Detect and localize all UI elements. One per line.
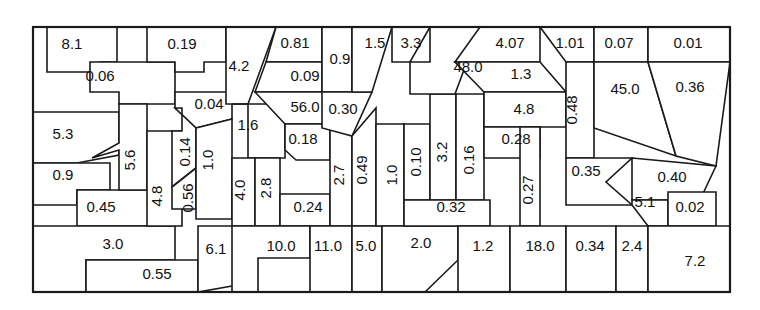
treemap-cell[interactable] — [648, 27, 730, 62]
treemap-cell[interactable] — [310, 226, 352, 292]
treemap-cells-layer — [33, 27, 730, 292]
treemap-figure: 8.10.065.30.90.453.00.555.60.194.80.040.… — [0, 0, 760, 310]
treemap-cell[interactable] — [280, 194, 330, 226]
treemap-cell[interactable] — [566, 226, 616, 292]
treemap-cell[interactable] — [404, 124, 430, 200]
treemap-cell[interactable] — [520, 127, 540, 226]
treemap-cell[interactable] — [255, 62, 322, 92]
treemap-cell[interactable] — [232, 158, 255, 226]
treemap-cell[interactable] — [458, 226, 510, 292]
treemap-cell[interactable] — [196, 119, 232, 219]
treemap-cell[interactable] — [430, 94, 456, 200]
treemap-cell[interactable] — [266, 27, 322, 62]
treemap-cell[interactable] — [33, 112, 119, 163]
treemap-cell[interactable] — [456, 94, 484, 200]
treemap-cell[interactable] — [540, 27, 594, 62]
treemap-cell[interactable] — [322, 27, 352, 92]
treemap-cell[interactable] — [352, 226, 382, 292]
treemap-cell[interactable] — [632, 200, 668, 226]
treemap-cell[interactable] — [392, 27, 430, 62]
treemap-cell[interactable] — [594, 27, 648, 62]
treemap-cell[interactable] — [255, 158, 280, 226]
treemap-cell[interactable] — [285, 124, 330, 160]
treemap-cell[interactable] — [510, 226, 566, 292]
treemap-cell[interactable] — [330, 124, 352, 226]
treemap-cell[interactable] — [668, 192, 716, 226]
treemap-canvas: 8.10.065.30.90.453.00.555.60.194.80.040.… — [0, 0, 760, 310]
treemap-cell[interactable] — [616, 226, 648, 292]
treemap-cell[interactable] — [566, 62, 594, 158]
treemap-cell[interactable] — [648, 226, 730, 292]
treemap-cell[interactable] — [404, 200, 490, 226]
treemap-cell[interactable] — [86, 260, 198, 292]
treemap-cell[interactable] — [376, 124, 404, 226]
treemap-cell[interactable] — [382, 226, 458, 292]
treemap-cell[interactable] — [484, 92, 566, 127]
treemap-cell[interactable] — [90, 62, 175, 104]
treemap-cell[interactable] — [566, 158, 632, 205]
treemap-cell[interactable] — [232, 226, 310, 292]
treemap-cell[interactable] — [352, 27, 392, 92]
treemap-cell[interactable] — [455, 62, 566, 92]
